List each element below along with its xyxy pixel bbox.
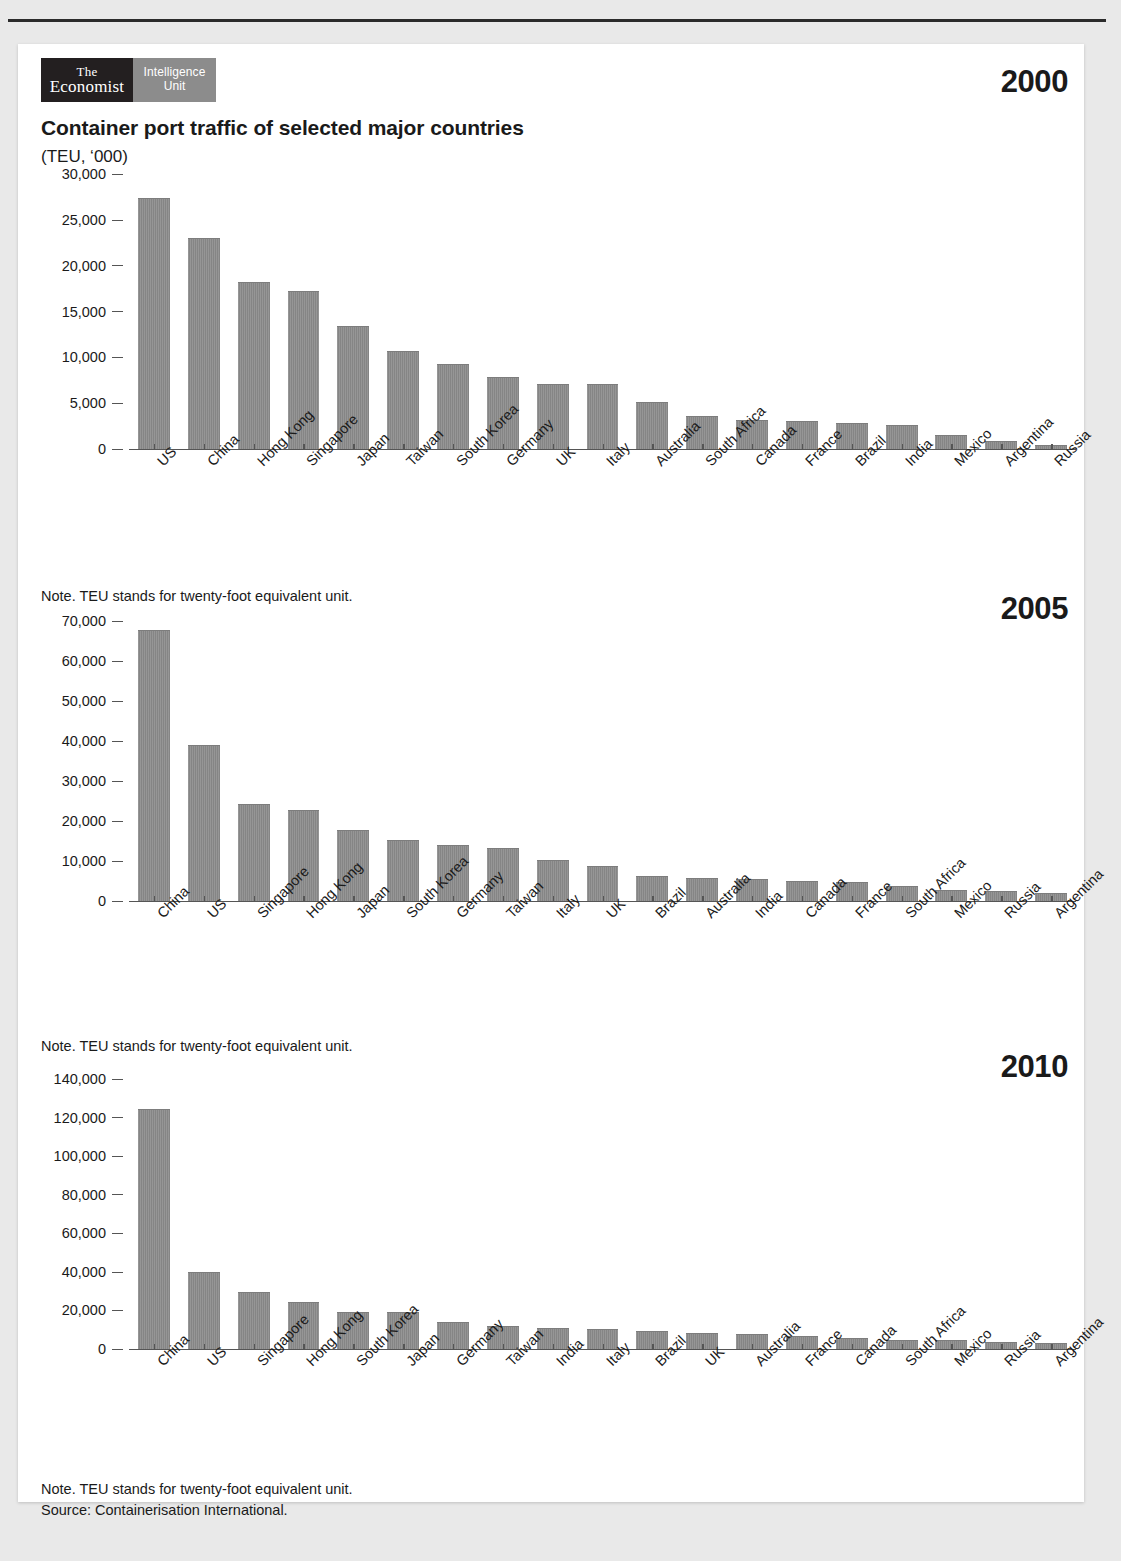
- x-axis-label-slot: Taiwan: [378, 449, 428, 535]
- bar-slot[interactable]: [179, 621, 229, 901]
- bar-slot[interactable]: [677, 174, 727, 449]
- bar-slot[interactable]: [827, 621, 877, 901]
- bar[interactable]: [238, 1292, 270, 1349]
- x-axis-label-slot: US: [179, 901, 229, 987]
- bar-slot[interactable]: [627, 174, 677, 449]
- y-axis-tick: 100,000: [54, 1148, 123, 1164]
- x-axis-label-slot: Japan: [328, 901, 378, 987]
- bar-slot[interactable]: [927, 174, 977, 449]
- bar-slot[interactable]: [129, 1079, 179, 1349]
- bar-slot[interactable]: [677, 1079, 727, 1349]
- bar-slot[interactable]: [279, 621, 329, 901]
- bar-slot[interactable]: [528, 621, 578, 901]
- bar-slot[interactable]: [578, 174, 628, 449]
- bar-slot[interactable]: [627, 621, 677, 901]
- bar-slot[interactable]: [727, 1079, 777, 1349]
- bar-slot[interactable]: [877, 1079, 927, 1349]
- bar-slot[interactable]: [229, 1079, 279, 1349]
- x-axis-label-slot: Canada: [827, 1349, 877, 1435]
- bar-slot[interactable]: [378, 621, 428, 901]
- bar-slot[interactable]: [428, 174, 478, 449]
- bar-slot[interactable]: [279, 1079, 329, 1349]
- bar-slot[interactable]: [627, 1079, 677, 1349]
- x-axis-label-slot: Japan: [328, 449, 378, 535]
- bar-slot[interactable]: [827, 1079, 877, 1349]
- x-axis-label-slot: Hong Kong: [279, 1349, 329, 1435]
- bar-slot[interactable]: [229, 174, 279, 449]
- bar-slot[interactable]: [428, 1079, 478, 1349]
- bar-slot[interactable]: [578, 621, 628, 901]
- bar-slot[interactable]: [677, 621, 727, 901]
- bar-slot[interactable]: [478, 621, 528, 901]
- bar-slot[interactable]: [777, 621, 827, 901]
- bar-slot[interactable]: [877, 174, 927, 449]
- bar-slot[interactable]: [328, 174, 378, 449]
- bar-slot[interactable]: [1026, 1079, 1076, 1349]
- bar-slot[interactable]: [1026, 174, 1076, 449]
- note-source: Source: Containerisation International.: [41, 1500, 353, 1521]
- x-axis-tick: [1051, 444, 1052, 449]
- bar-slot[interactable]: [976, 1079, 1026, 1349]
- bar-slot[interactable]: [528, 1079, 578, 1349]
- x-axis-tick: [154, 1344, 155, 1349]
- x-axis-tick: [702, 1344, 703, 1349]
- bar-slot[interactable]: [129, 174, 179, 449]
- bar-slot[interactable]: [478, 1079, 528, 1349]
- y-axis-tick-dash: [112, 1272, 123, 1273]
- y-axis-tick: 20,000: [62, 1302, 123, 1318]
- y-axis-tick: 5,000: [70, 395, 123, 411]
- bar-slot[interactable]: [229, 621, 279, 901]
- x-axis-tick: [852, 896, 853, 901]
- bar[interactable]: [587, 384, 619, 449]
- bar-slot[interactable]: [976, 174, 1026, 449]
- x-axis-label-slot: Argentina: [1026, 1349, 1076, 1435]
- bar-slot[interactable]: [1026, 621, 1076, 901]
- bar-slot[interactable]: [777, 174, 827, 449]
- bar[interactable]: [238, 282, 270, 449]
- y-axis-tick: 40,000: [62, 733, 123, 749]
- x-axis-tick: [553, 1344, 554, 1349]
- bar-slot[interactable]: [827, 174, 877, 449]
- logo-line-unit: Unit: [164, 80, 186, 94]
- y-axis-tick-dash: [112, 1233, 123, 1234]
- bar[interactable]: [387, 840, 419, 901]
- x-axis-tick: [254, 1344, 255, 1349]
- bar[interactable]: [387, 351, 419, 449]
- bar-slot[interactable]: [179, 174, 229, 449]
- y-axis-tick-dash: [112, 741, 123, 742]
- plot-area-2010: 020,00040,00060,00080,000100,000120,0001…: [41, 1079, 1084, 1349]
- x-axis-label-slot: Italy: [578, 1349, 628, 1435]
- bar-slot[interactable]: [129, 621, 179, 901]
- x-axis-label-slot: Japan: [378, 1349, 428, 1435]
- bar[interactable]: [138, 630, 170, 901]
- x-axis-label-slot: France: [777, 1349, 827, 1435]
- bar[interactable]: [188, 238, 220, 449]
- y-axis-tick-dash: [112, 174, 123, 175]
- bar-slot[interactable]: [378, 174, 428, 449]
- bar[interactable]: [188, 745, 220, 901]
- x-axis-label-slot: China: [129, 901, 179, 987]
- y-axis-tick-label: 25,000: [62, 212, 106, 228]
- x-axis-tick: [852, 444, 853, 449]
- bar[interactable]: [238, 804, 270, 901]
- bar-slot[interactable]: [976, 621, 1026, 901]
- bar-slot[interactable]: [578, 1079, 628, 1349]
- bar-slot[interactable]: [179, 1079, 229, 1349]
- x-axis-tick: [652, 1344, 653, 1349]
- note-2000: Note. TEU stands for twenty-foot equival…: [41, 586, 353, 607]
- x-axis-tick: [752, 444, 753, 449]
- bar[interactable]: [138, 198, 170, 449]
- bar-slot[interactable]: [727, 621, 777, 901]
- bar-slot[interactable]: [777, 1079, 827, 1349]
- bars-2000: [129, 174, 1076, 450]
- bar-slot[interactable]: [528, 174, 578, 449]
- x-axis-tick: [652, 444, 653, 449]
- bar[interactable]: [636, 402, 668, 449]
- bar[interactable]: [138, 1109, 170, 1349]
- x-axis-tick: [852, 1344, 853, 1349]
- x-axis-tick: [403, 896, 404, 901]
- bar[interactable]: [188, 1272, 220, 1349]
- bar-slot[interactable]: [877, 621, 927, 901]
- x-axis-tick: [603, 444, 604, 449]
- bar[interactable]: [537, 860, 569, 901]
